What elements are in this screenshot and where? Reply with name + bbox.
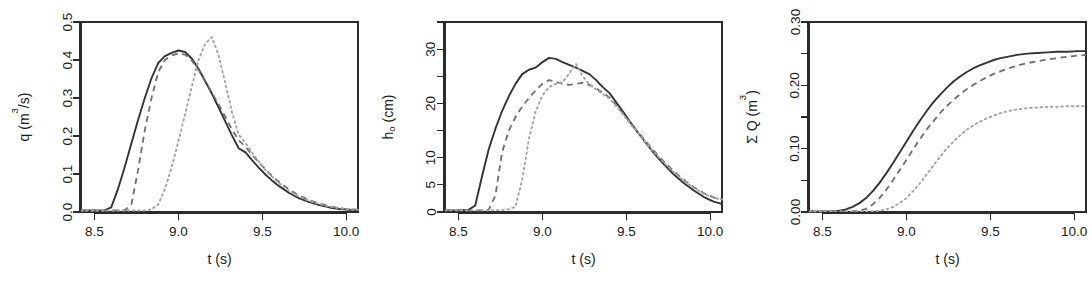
y-tick-label: 30	[424, 42, 439, 57]
y-tick-label: 0.4	[60, 50, 75, 69]
series-line-dashed	[809, 55, 1086, 211]
y-tick-label: 10	[424, 150, 439, 165]
x-tick-label: 9.0	[169, 224, 188, 239]
series-line-dotted	[445, 64, 722, 211]
y-tick-label: 0.20	[788, 72, 803, 98]
y-axis-title: q (m3/s)	[9, 93, 32, 142]
x-tick-label: 9.0	[533, 224, 552, 239]
x-tick-label: 9.5	[253, 224, 272, 239]
series-line-dashed	[445, 80, 722, 210]
y-tick-label: 0.1	[60, 165, 75, 184]
y-tick-label: 0.5	[60, 13, 75, 32]
chart-panel-waterdepth: 8.59.09.510.005102030t (s)ho (cm)	[364, 0, 728, 282]
x-tick-label: 10.0	[333, 224, 359, 239]
series-line-solid	[445, 58, 722, 211]
x-tick-label: 10.0	[697, 224, 723, 239]
plot-box-frame	[81, 22, 358, 212]
series-line-dotted	[809, 106, 1086, 211]
y-tick-label: 0	[424, 208, 439, 216]
x-tick-label: 10.0	[1061, 224, 1087, 239]
y-tick-label: 0.3	[60, 89, 75, 108]
y-axis-title: ho (cm)	[380, 95, 397, 140]
y-tick-label: 0.0	[60, 203, 75, 222]
x-tick-label: 9.5	[981, 224, 1000, 239]
series-line-solid	[81, 51, 358, 211]
x-tick-label: 8.5	[85, 224, 104, 239]
series-line-dotted	[81, 37, 358, 210]
chart-panel-discharge: 8.59.09.510.00.00.10.20.30.40.5t (s)q (m…	[0, 0, 364, 282]
x-tick-label: 8.5	[449, 224, 468, 239]
y-tick-label: 0.2	[60, 127, 75, 146]
chart-svg-discharge: 8.59.09.510.00.00.10.20.30.40.5t (s)q (m…	[0, 0, 364, 282]
series-line-solid	[809, 51, 1086, 211]
x-axis-title: t (s)	[571, 251, 595, 267]
y-axis-title: Σ Q (m3)	[737, 90, 760, 144]
y-tick-label: 20	[424, 96, 439, 111]
chart-svg-waterdepth: 8.59.09.510.005102030t (s)ho (cm)	[364, 0, 728, 282]
x-tick-label: 8.5	[813, 224, 832, 239]
plot-box-frame	[445, 22, 722, 212]
y-tick-label: 0.10	[788, 136, 803, 162]
plot-box-frame	[809, 22, 1086, 212]
figure-container: 8.59.09.510.00.00.10.20.30.40.5t (s)q (m…	[0, 0, 1092, 282]
plot-area-waterdepth: 8.59.09.510.005102030t (s)ho (cm)	[380, 22, 723, 267]
chart-svg-cumulative: 8.59.09.510.00.000.100.200.30t (s)Σ Q (m…	[728, 0, 1092, 282]
y-tick-label: 5	[424, 181, 439, 189]
y-tick-label: 0.00	[788, 199, 803, 225]
chart-panel-cumulative: 8.59.09.510.00.000.100.200.30t (s)Σ Q (m…	[728, 0, 1092, 282]
plot-area-discharge: 8.59.09.510.00.00.10.20.30.40.5t (s)q (m…	[9, 13, 359, 267]
x-axis-title: t (s)	[207, 251, 231, 267]
y-tick-label: 0.30	[788, 9, 803, 35]
x-axis-title: t (s)	[935, 251, 959, 267]
series-line-dashed	[81, 54, 358, 211]
x-tick-label: 9.0	[897, 224, 916, 239]
x-tick-label: 9.5	[617, 224, 636, 239]
plot-area-cumulative: 8.59.09.510.00.000.100.200.30t (s)Σ Q (m…	[737, 9, 1087, 267]
